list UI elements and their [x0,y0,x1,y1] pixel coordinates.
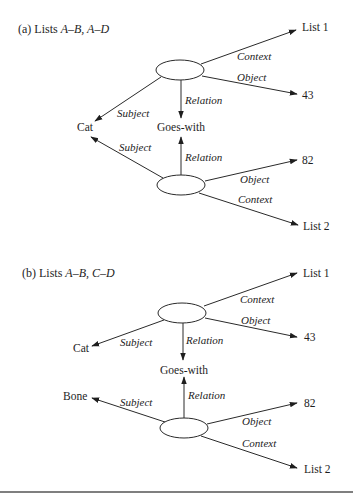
proposition-node [156,60,204,80]
context-label: Context [242,437,277,449]
node-43: 43 [304,331,316,343]
node-bone: Bone [63,390,87,402]
subject-label: Subject [119,141,152,153]
node-list-2: List 2 [304,463,331,475]
relation-label: Relation [185,334,224,346]
node-43: 43 [302,89,314,101]
panel-b-title-prefix: (b) Lists [22,266,65,280]
node-82: 82 [302,154,314,166]
node-list-1: List 1 [302,21,329,33]
context-label: Context [238,193,273,205]
panel-a-title-prefix: (a) Lists [18,22,61,36]
proposition-node [157,175,205,195]
node-list-2: List 2 [303,220,330,232]
relation-label: Relation [184,151,223,163]
panel-b-proposition-1: Context Object Relation Subject [92,273,297,360]
panel-b: (b) Lists A–B, C–D Context Object Relati… [22,266,331,475]
node-82: 82 [304,397,316,409]
node-goes-with: Goes-with [160,364,208,376]
object-label: Object [237,71,267,83]
proposition-node [160,418,208,438]
node-goes-with: Goes-with [157,121,205,133]
relation-label: Relation [187,389,226,401]
object-label: Object [242,415,272,427]
node-cat: Cat [77,121,94,133]
panel-a: (a) Lists A–B, A–D Context Object Relati… [18,21,330,232]
context-label: Context [240,293,275,305]
subject-label: Subject [117,107,150,119]
panel-b-title: (b) Lists A–B, C–D [22,266,115,280]
panel-b-proposition-2: Relation Subject Object Context [92,377,297,468]
proposition-node [158,303,206,323]
panel-b-title-lists: A–B, C–D [64,266,115,280]
panel-a-proposition-2: Subject Relation Object Context [91,137,298,225]
subject-label: Subject [120,336,153,348]
panel-a-title: (a) Lists A–B, A–D [18,22,109,36]
relation-label: Relation [184,94,223,106]
subject-label: Subject [120,396,153,408]
node-cat: Cat [73,342,90,354]
panel-a-proposition-1: Context Object Relation Subject [95,30,297,121]
object-label: Object [240,173,270,185]
proposition-network-figure: (a) Lists A–B, A–D Context Object Relati… [0,0,353,497]
panel-a-title-lists: A–B, A–D [60,22,110,36]
context-label: Context [237,50,272,62]
object-label: Object [241,314,271,326]
node-list-1: List 1 [303,267,330,279]
